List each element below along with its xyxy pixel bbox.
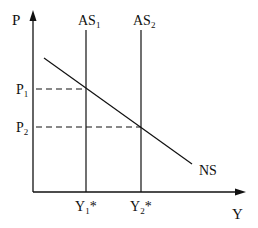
x-axis-label: Y	[232, 206, 243, 222]
y-axis-label: P	[12, 12, 20, 28]
p1-label: P1	[16, 82, 28, 99]
ns-curve	[44, 58, 192, 164]
y2-star-label: Y2*	[130, 199, 152, 216]
y-axis-arrow-icon	[30, 10, 37, 21]
as2-label: AS2	[133, 13, 155, 30]
y1-star-label: Y1*	[75, 199, 97, 216]
diagram-canvas: P Y AS1 AS2 NS P1 P2 Y1* Y2*	[0, 0, 258, 228]
as1-label: AS1	[78, 13, 100, 30]
as-ns-diagram: P Y AS1 AS2 NS P1 P2 Y1* Y2*	[0, 0, 258, 228]
x-axis-arrow-icon	[235, 189, 246, 196]
p2-label: P2	[16, 120, 28, 137]
ns-label: NS	[199, 163, 217, 178]
